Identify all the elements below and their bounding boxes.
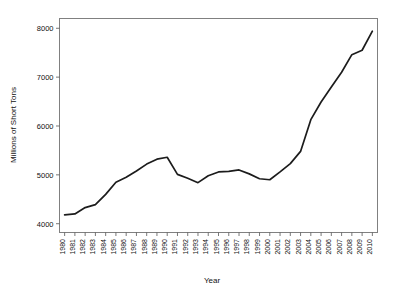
x-tick-label: 1990 bbox=[161, 239, 168, 255]
x-tick-label: 1995 bbox=[213, 239, 220, 255]
x-tick-label: 1989 bbox=[151, 239, 158, 255]
x-tick-label: 1984 bbox=[100, 239, 107, 255]
x-tick-label: 1980 bbox=[59, 239, 66, 255]
x-tick-label: 1999 bbox=[254, 239, 261, 255]
x-tick-label: 1992 bbox=[182, 239, 189, 255]
x-tick-label: 2001 bbox=[274, 239, 281, 255]
x-tick-label: 1987 bbox=[130, 239, 137, 255]
y-tick-label: 5000 bbox=[37, 171, 54, 180]
y-tick-label: 8000 bbox=[37, 24, 54, 33]
line-chart: 40005000600070008000 1980198119821983198… bbox=[0, 0, 395, 288]
x-tick-label: 1991 bbox=[171, 239, 178, 255]
x-tick-label: 2007 bbox=[336, 239, 343, 255]
x-tick-label: 1997 bbox=[233, 239, 240, 255]
y-axis-title: Millions of Short Tons bbox=[9, 87, 18, 163]
x-tick-label: 1988 bbox=[141, 239, 148, 255]
y-tick-label: 7000 bbox=[37, 73, 54, 82]
x-tick-label: 2009 bbox=[356, 239, 363, 255]
x-tick-label: 1986 bbox=[120, 239, 127, 255]
x-tick-label: 2003 bbox=[295, 239, 302, 255]
x-tick-label: 1993 bbox=[192, 239, 199, 255]
x-tick-label: 1983 bbox=[89, 239, 96, 255]
x-tick-label: 1985 bbox=[110, 239, 117, 255]
x-tick-label: 1994 bbox=[202, 239, 209, 255]
x-axis-title: Year bbox=[204, 276, 221, 285]
x-tick-label: 2006 bbox=[325, 239, 332, 255]
y-tick-label: 4000 bbox=[37, 220, 54, 229]
chart-figure: 40005000600070008000 1980198119821983198… bbox=[0, 0, 395, 288]
x-tick-label: 2005 bbox=[315, 239, 322, 255]
x-tick-label: 2004 bbox=[305, 239, 312, 255]
x-tick-label: 1996 bbox=[223, 239, 230, 255]
x-tick-label: 2010 bbox=[366, 239, 373, 255]
x-tick-label: 1982 bbox=[79, 239, 86, 255]
x-tick-label: 2008 bbox=[346, 239, 353, 255]
x-tick-label: 2002 bbox=[284, 239, 291, 255]
x-tick-label: 2000 bbox=[264, 239, 271, 255]
y-tick-label: 6000 bbox=[37, 122, 54, 131]
x-tick-label: 1981 bbox=[69, 239, 76, 255]
x-tick-label: 1998 bbox=[243, 239, 250, 255]
